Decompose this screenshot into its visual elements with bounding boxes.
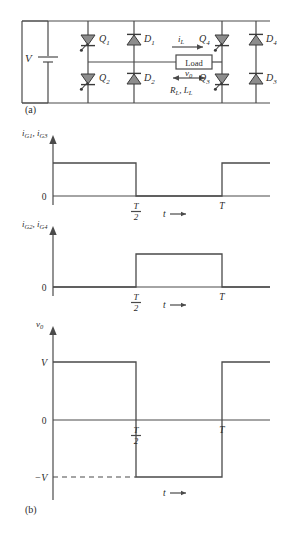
wf2-xtick-T: T bbox=[219, 292, 225, 302]
wf1-xtick-t-over-2: T 2 bbox=[131, 201, 141, 222]
load-voltage-label: v0 bbox=[185, 68, 193, 79]
thyristor-q3: Q3 bbox=[199, 72, 229, 91]
wf2-xtick-t-over-2: T 2 bbox=[131, 292, 141, 313]
load-parameters-label: RL, LL bbox=[169, 85, 193, 96]
wf2-x-axis-label: t bbox=[163, 300, 186, 310]
thyristor-q2: Q2 bbox=[80, 72, 110, 91]
diode-d2: D2 bbox=[127, 72, 155, 86]
wf3-x-axis-arrow-head bbox=[181, 491, 186, 496]
wf1-x-axis-arrow-head bbox=[181, 212, 186, 217]
wf3-xtick-numerator: T bbox=[133, 425, 139, 435]
load-voltage-arrow-head-left bbox=[173, 75, 179, 81]
wf2-xtick-denominator: 2 bbox=[134, 303, 139, 313]
thyristor-q4: Q4 bbox=[199, 33, 229, 52]
d1-triangle bbox=[127, 35, 141, 45]
thyristor-q1: Q1 bbox=[80, 33, 110, 52]
d4-triangle bbox=[249, 35, 263, 45]
diode-d1: D1 bbox=[127, 33, 155, 47]
diode-d4: D4 bbox=[249, 33, 277, 47]
source-bottom-lead bbox=[22, 62, 48, 103]
wf2-y-axis-arrowhead bbox=[49, 226, 56, 235]
wf1-xtick-numerator: T bbox=[133, 201, 139, 211]
diode-d3: D3 bbox=[249, 72, 277, 86]
q2-label: Q2 bbox=[99, 72, 110, 86]
wf1-x-axis-label-text: t bbox=[163, 209, 166, 219]
wf3-ytick-V: V bbox=[41, 357, 49, 368]
load-current-arrow-head bbox=[197, 44, 203, 50]
wf3-xtick-denominator: 2 bbox=[134, 436, 139, 446]
source-top-lead bbox=[22, 21, 48, 56]
wf3-ytick-zero: 0 bbox=[42, 416, 47, 426]
source-voltage-label: V bbox=[25, 52, 33, 64]
wf1-trace bbox=[53, 163, 270, 196]
q1-gate-terminal bbox=[80, 49, 83, 52]
wf2-x-axis-arrow-head bbox=[181, 303, 186, 308]
wf2-xtick-numerator: T bbox=[133, 292, 139, 302]
wf3-y-axis-label: v0 bbox=[36, 319, 44, 330]
d4-label: D4 bbox=[265, 33, 277, 47]
load-label: Load bbox=[185, 58, 203, 68]
wf1-xtick-denominator: 2 bbox=[134, 212, 139, 222]
q3-gate-terminal bbox=[214, 88, 217, 91]
d2-triangle bbox=[127, 74, 141, 84]
wf3-x-axis-label-text: t bbox=[163, 488, 166, 498]
waveform-ig2-ig4: iG2, iG4 0 T 2 T t bbox=[22, 219, 270, 313]
load-current-label: iL bbox=[178, 34, 185, 45]
wf3-ytick-negative-V: −V bbox=[35, 472, 50, 483]
wf2-x-axis-label-text: t bbox=[163, 300, 166, 310]
wf3-xtick-t-over-2: T 2 bbox=[131, 425, 141, 446]
wf1-y-axis-label: iG1, iG3 bbox=[22, 128, 48, 139]
wf2-y-axis-label: iG2, iG4 bbox=[22, 219, 48, 230]
wf1-x-axis-label: t bbox=[163, 209, 186, 219]
panel-b-caption: (b) bbox=[25, 504, 37, 516]
q3-label: Q3 bbox=[199, 72, 210, 86]
d1-label: D1 bbox=[143, 33, 155, 47]
wf3-x-axis-label: t bbox=[163, 488, 186, 498]
wf3-y-axis-arrowhead bbox=[49, 326, 56, 335]
q4-label: Q4 bbox=[199, 33, 210, 47]
inverter-figure: V Load iL v0 RL, LL Q1 bbox=[0, 0, 289, 533]
d3-triangle bbox=[249, 74, 263, 84]
circuit-panel-a: V Load iL v0 RL, LL Q1 bbox=[22, 21, 277, 116]
waveform-v0: v0 V 0 −V T 2 T t (b) bbox=[25, 319, 270, 516]
q4-gate-terminal bbox=[214, 49, 217, 52]
wf2-ytick-zero: 0 bbox=[42, 283, 47, 293]
wf1-ytick-zero: 0 bbox=[42, 192, 47, 202]
wf1-y-axis-arrowhead bbox=[49, 135, 56, 144]
wf1-xtick-T: T bbox=[219, 201, 225, 211]
q1-label: Q1 bbox=[99, 33, 110, 47]
d2-label: D2 bbox=[143, 72, 155, 86]
q2-gate-terminal bbox=[80, 88, 83, 91]
waveform-ig1-ig3: iG1, iG3 0 T 2 T t bbox=[22, 128, 270, 222]
panel-a-caption: (a) bbox=[25, 104, 36, 116]
wf3-xtick-T: T bbox=[219, 425, 225, 435]
d3-label: D3 bbox=[265, 72, 277, 86]
wf2-trace bbox=[53, 254, 270, 287]
